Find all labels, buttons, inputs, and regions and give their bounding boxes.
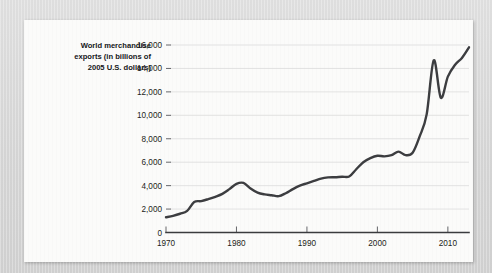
x-tick-label: 1980 bbox=[227, 239, 246, 248]
y-tick-label: 4,000 bbox=[142, 182, 163, 191]
chart-figure-panel: World merchandise exports (in billions o… bbox=[24, 20, 473, 262]
x-tick-label: 2000 bbox=[368, 239, 387, 248]
y-tick-labels-group: 02,0004,0006,0008,00010,00012,00014,0001… bbox=[137, 41, 162, 238]
x-tick-marks-group bbox=[166, 227, 448, 233]
x-tick-label: 2010 bbox=[439, 239, 458, 248]
data-series-line bbox=[166, 47, 469, 217]
y-tick-label: 16,000 bbox=[137, 41, 162, 50]
x-tick-label: 1990 bbox=[298, 239, 317, 248]
y-tick-label: 0 bbox=[157, 229, 162, 238]
y-tick-label: 10,000 bbox=[137, 111, 162, 120]
y-tick-marks-group bbox=[166, 45, 171, 233]
y-tick-label: 2,000 bbox=[142, 205, 163, 214]
y-tick-label: 8,000 bbox=[142, 135, 163, 144]
line-chart: World merchandise exports (in billions o… bbox=[24, 20, 473, 262]
y-tick-label: 6,000 bbox=[142, 158, 163, 167]
x-tick-labels-group: 19701980199020002010 bbox=[157, 239, 458, 248]
x-tick-label: 1970 bbox=[157, 239, 176, 248]
y-axis-title-line-2: exports (in billions of bbox=[74, 52, 151, 61]
y-tick-label: 12,000 bbox=[137, 88, 162, 97]
y-tick-label: 14,000 bbox=[137, 64, 162, 73]
